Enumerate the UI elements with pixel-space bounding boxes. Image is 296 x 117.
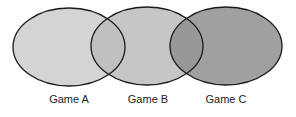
label-game-c: Game C	[186, 93, 266, 105]
label-game-b: Game B	[108, 93, 188, 105]
label-game-a: Game A	[29, 93, 109, 105]
